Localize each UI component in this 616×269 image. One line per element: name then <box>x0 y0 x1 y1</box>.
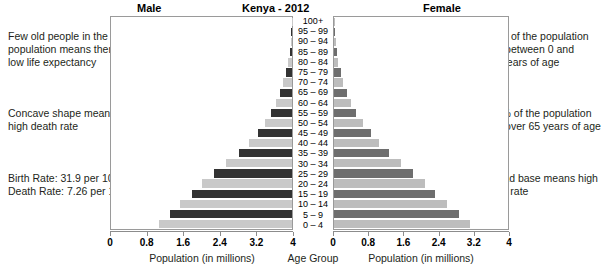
female-bar <box>334 119 363 127</box>
axis-tick-label: 1.6 <box>176 237 190 248</box>
table-row <box>111 209 292 219</box>
age-group-label: 55 – 59 <box>293 108 333 118</box>
male-x-axis-line <box>110 231 293 232</box>
age-group-label: 90 – 94 <box>293 36 333 46</box>
female-bar <box>334 159 401 167</box>
table-row <box>111 37 292 47</box>
axis-tick-label: 3.2 <box>467 237 481 248</box>
age-group-label: 45 – 49 <box>293 128 333 138</box>
axis-tick <box>293 232 294 236</box>
female-bar <box>334 109 356 117</box>
female-bar <box>334 129 371 137</box>
axis-tick <box>474 232 475 236</box>
table-row <box>111 148 292 158</box>
age-group-label: 60 – 64 <box>293 98 333 108</box>
table-row <box>111 98 292 108</box>
table-row <box>334 128 508 138</box>
annotation-death-rate: Concave shape meanshigh death rate <box>8 107 115 133</box>
table-row <box>334 27 508 37</box>
age-group-label: 10 – 14 <box>293 199 333 209</box>
female-bar <box>334 28 335 36</box>
male-bar <box>271 109 292 117</box>
age-group-label: 80 – 84 <box>293 57 333 67</box>
axis-tick-label: 0.8 <box>361 237 375 248</box>
axis-tick <box>403 232 404 236</box>
age-group-label: 85 – 89 <box>293 47 333 57</box>
table-row <box>334 47 508 57</box>
axis-tick-label: 0 <box>330 237 336 248</box>
table-row <box>111 128 292 138</box>
age-group-label: 35 – 39 <box>293 148 333 158</box>
age-group-label: 30 – 34 <box>293 159 333 169</box>
table-row <box>111 199 292 209</box>
male-bar <box>288 58 292 66</box>
table-row <box>111 17 292 27</box>
male-bar <box>202 179 293 187</box>
age-group-label: 70 – 74 <box>293 77 333 87</box>
center-axis-title: Age Group <box>288 252 339 264</box>
table-row <box>334 118 508 128</box>
table-row <box>334 88 508 98</box>
table-row <box>334 17 508 27</box>
female-bar <box>334 38 336 46</box>
axis-tick <box>110 232 111 236</box>
male-bar <box>291 28 292 36</box>
male-bar <box>170 210 292 218</box>
age-group-label: 100+ <box>293 16 333 26</box>
axis-tick <box>256 232 257 236</box>
female-bar <box>334 78 343 86</box>
male-bar <box>286 68 292 76</box>
male-bar <box>283 78 292 86</box>
axis-tick-label: 4 <box>290 237 296 248</box>
age-group-label: 50 – 54 <box>293 118 333 128</box>
table-row <box>111 189 292 199</box>
table-row <box>111 138 292 148</box>
age-group-label: 25 – 29 <box>293 169 333 179</box>
male-bar <box>192 190 292 198</box>
table-row <box>334 78 508 88</box>
female-bar <box>334 58 338 66</box>
male-bar <box>291 38 292 46</box>
male-bar <box>214 169 292 177</box>
male-bar <box>280 89 292 97</box>
axis-tick-label: 0.8 <box>140 237 154 248</box>
table-row <box>334 37 508 47</box>
female-bar <box>334 179 425 187</box>
male-bar <box>159 220 292 228</box>
male-bar <box>249 139 292 147</box>
table-row <box>111 108 292 118</box>
age-group-label: 5 – 9 <box>293 210 333 220</box>
table-row <box>334 67 508 77</box>
female-column-header: Female <box>423 2 461 14</box>
table-row <box>111 27 292 37</box>
table-row <box>334 219 508 229</box>
axis-tick <box>333 232 334 236</box>
table-row <box>111 57 292 67</box>
table-row <box>111 179 292 189</box>
table-row <box>334 209 508 219</box>
table-row <box>334 189 508 199</box>
age-group-label: 20 – 24 <box>293 179 333 189</box>
table-row <box>111 47 292 57</box>
age-group-label: 65 – 69 <box>293 87 333 97</box>
axis-tick-label: 2.4 <box>213 237 227 248</box>
table-row <box>334 168 508 178</box>
female-bar <box>334 210 459 218</box>
female-bar <box>334 169 413 177</box>
axis-tick <box>183 232 184 236</box>
axis-tick-label: 1.6 <box>396 237 410 248</box>
age-group-label: 75 – 79 <box>293 67 333 77</box>
female-bar <box>334 190 435 198</box>
axis-tick-label: 3.2 <box>249 237 263 248</box>
male-bar <box>180 200 292 208</box>
table-row <box>334 199 508 209</box>
male-column-header: Male <box>137 2 161 14</box>
male-bar <box>276 99 292 107</box>
table-row <box>334 108 508 118</box>
table-row <box>111 168 292 178</box>
axis-tick-label: 0 <box>107 237 113 248</box>
female-bar <box>334 220 470 228</box>
table-row <box>334 179 508 189</box>
female-bar <box>334 149 389 157</box>
age-group-label: 0 – 4 <box>293 220 333 230</box>
